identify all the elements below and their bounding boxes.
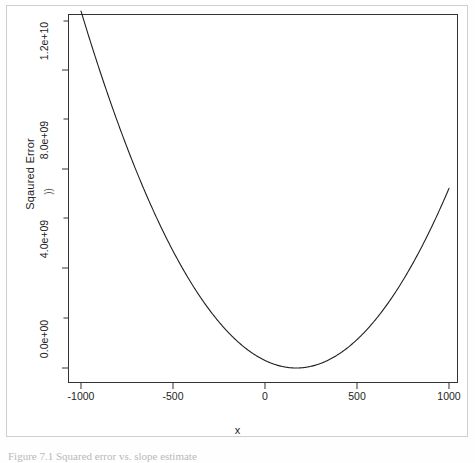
figure-page: Sqaured Error x 0.0e+00 4.0e+09 8.0e+09 …	[0, 0, 475, 463]
y-tick-label-0: 0.0e+00	[38, 304, 50, 374]
y-tick-label-4e9: 4.0e+09	[38, 204, 50, 274]
x-tick-label-0: 0	[230, 390, 300, 402]
y-tick-label-12e9: 1.2e+10	[38, 6, 50, 76]
y-axis-title: Sqaured Error	[24, 104, 36, 244]
x-tick-label-neg500: -500	[138, 390, 208, 402]
y-tick-label-8e9: 8.0e+09	[38, 105, 50, 175]
x-tick-label-500: 500	[322, 390, 392, 402]
chart-figure: Sqaured Error x 0.0e+00 4.0e+09 8.0e+09 …	[0, 0, 475, 463]
figure-caption: Figure 7.1 Squared error vs. slope estim…	[8, 449, 338, 463]
x-tick-label-neg1000: -1000	[46, 390, 116, 402]
scan-artifact-glyph: ))	[43, 174, 54, 210]
x-tick-label-1000: 1000	[414, 390, 475, 402]
plot-frame	[69, 15, 458, 383]
squared-error-curve	[81, 11, 449, 368]
x-axis-title: x	[0, 424, 475, 436]
